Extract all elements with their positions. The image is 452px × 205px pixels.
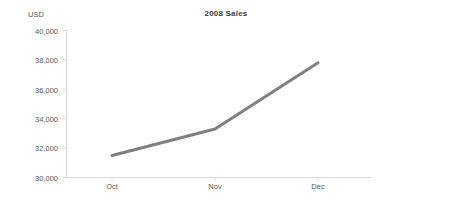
line-chart: 2008 Sales USD 40,000 38,000 36,000 34,0… bbox=[0, 0, 452, 205]
y-tick-marks bbox=[63, 31, 67, 178]
plot-area bbox=[0, 0, 452, 205]
series-line-2008-sales bbox=[112, 63, 318, 156]
x-tick-marks bbox=[112, 178, 318, 182]
